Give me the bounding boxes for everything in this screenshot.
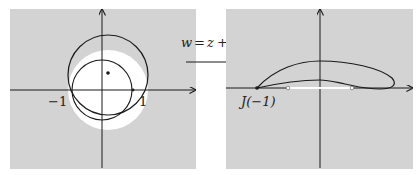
center-point — [106, 71, 110, 75]
formula-eq: = — [194, 35, 205, 50]
w-plane-panel: J(−1) — [226, 9, 413, 169]
point-j-minus-one — [255, 86, 259, 90]
slit-end-left — [286, 86, 290, 90]
point-one — [132, 89, 135, 92]
formula-w: w — [181, 35, 192, 50]
joukowski-diagram: −1 1 w = z + 1 z J(−1) — [0, 0, 420, 175]
tick-label-neg-one: −1 — [48, 94, 67, 109]
label-j-minus-one: J(−1) — [238, 94, 276, 109]
tick-label-one: 1 — [139, 94, 147, 109]
slit-end-right — [350, 86, 354, 90]
formula-z: z — [206, 35, 214, 50]
z-plane-panel: −1 1 — [10, 9, 196, 169]
